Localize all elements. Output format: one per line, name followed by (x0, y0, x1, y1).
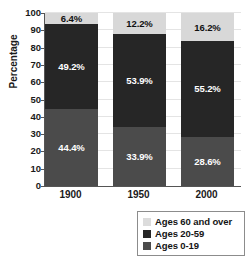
plot-area: 6.4%49.2%44.4%12.2%53.9%33.9%16.2%55.2%2… (44, 13, 241, 187)
bar-segment[interactable]: 53.9% (113, 34, 166, 127)
bar-segment-value-label: 12.2% (126, 18, 152, 29)
bar-stack: 6.4%49.2%44.4% (45, 13, 98, 186)
bar-segment-value-label: 16.2% (194, 22, 220, 33)
bar-segment[interactable]: 44.4% (45, 109, 98, 186)
bar-group[interactable]: 6.4%49.2%44.4% (45, 13, 98, 186)
bar-segment-value-label: 55.2% (194, 83, 220, 94)
bar-group[interactable]: 16.2%55.2%28.6% (181, 13, 234, 186)
bar-segment-value-label: 49.2% (58, 61, 84, 72)
x-axis-tick-label: 2000 (180, 189, 233, 200)
legend: Ages 60 and over Ages 20-59 Ages 0-19 (137, 211, 245, 256)
x-axis-tick-labels: 190019502000 (44, 189, 240, 205)
x-axis-tick-label: 1950 (112, 189, 165, 200)
bar-segment[interactable]: 12.2% (113, 13, 166, 34)
bar-stack: 16.2%55.2%28.6% (181, 13, 234, 186)
legend-swatch-icon (143, 230, 151, 238)
x-axis-tick-label: 1900 (44, 189, 97, 200)
bar-segment[interactable]: 33.9% (113, 127, 166, 186)
bar-segment[interactable]: 28.6% (181, 137, 234, 186)
legend-item-label: Ages 20-59 (155, 228, 204, 239)
legend-item[interactable]: Ages 20-59 (143, 228, 240, 239)
y-axis-title: Percentage (8, 6, 19, 118)
bar-segment-value-label: 33.9% (126, 151, 152, 162)
bar-segment-value-label: 53.9% (126, 75, 152, 86)
bar-segment-value-label: 28.6% (194, 156, 220, 167)
legend-item[interactable]: Ages 60 and over (143, 216, 240, 227)
bar-segment-value-label: 44.4% (58, 142, 84, 153)
bar-group[interactable]: 12.2%53.9%33.9% (113, 13, 166, 186)
bar-series-container: 6.4%49.2%44.4%12.2%53.9%33.9%16.2%55.2%2… (45, 13, 241, 186)
bar-segment-value-label: 6.4% (61, 13, 82, 24)
bar-segment[interactable]: 16.2% (181, 13, 234, 41)
legend-item[interactable]: Ages 0-19 (143, 240, 240, 251)
bar-stack: 12.2%53.9%33.9% (113, 13, 166, 186)
stacked-bar-chart: Percentage 0102030405060708090100 6.4%49… (0, 0, 249, 256)
bar-segment[interactable]: 49.2% (45, 24, 98, 109)
legend-item-label: Ages 0-19 (155, 240, 199, 251)
y-axis-tick-label: 10 (1, 164, 41, 173)
y-axis-tick-label: 0 (1, 181, 41, 190)
y-axis-tick-label: 20 (1, 146, 41, 155)
legend-item-label: Ages 60 and over (155, 216, 232, 227)
y-axis-tick-label: 30 (1, 129, 41, 138)
bar-segment[interactable]: 55.2% (181, 41, 234, 136)
legend-swatch-icon (143, 242, 151, 250)
legend-swatch-icon (143, 218, 151, 226)
bar-segment[interactable]: 6.4% (45, 13, 98, 24)
